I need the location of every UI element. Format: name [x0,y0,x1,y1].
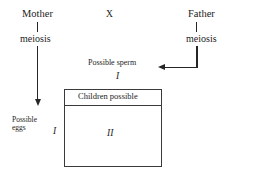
genetics-cross-diagram: Mother X Father meiosis meiosis Possible… [0,0,279,179]
father-meiosis-label: meiosis [186,34,217,45]
possible-eggs-label: Possible eggs [12,116,37,132]
cross-symbol: X [106,9,113,19]
offspring-genotype-label: II [107,128,113,138]
egg-allele-label: I [53,126,56,136]
children-box-header-divider [64,105,162,106]
father-meiosis-arrow-vertical [196,46,198,68]
possible-sperm-label: Possible sperm [88,59,136,68]
children-possible-header: Children possible [78,92,138,101]
father-connector-line [196,22,197,32]
father-label: Father [188,8,215,19]
sperm-allele-label: I [116,71,119,81]
mother-label: Mother [22,8,53,19]
mother-connector-line [37,22,38,32]
mother-meiosis-label: meiosis [20,34,51,45]
father-meiosis-arrow-icon [165,67,197,69]
mother-meiosis-arrow-icon [37,46,38,100]
